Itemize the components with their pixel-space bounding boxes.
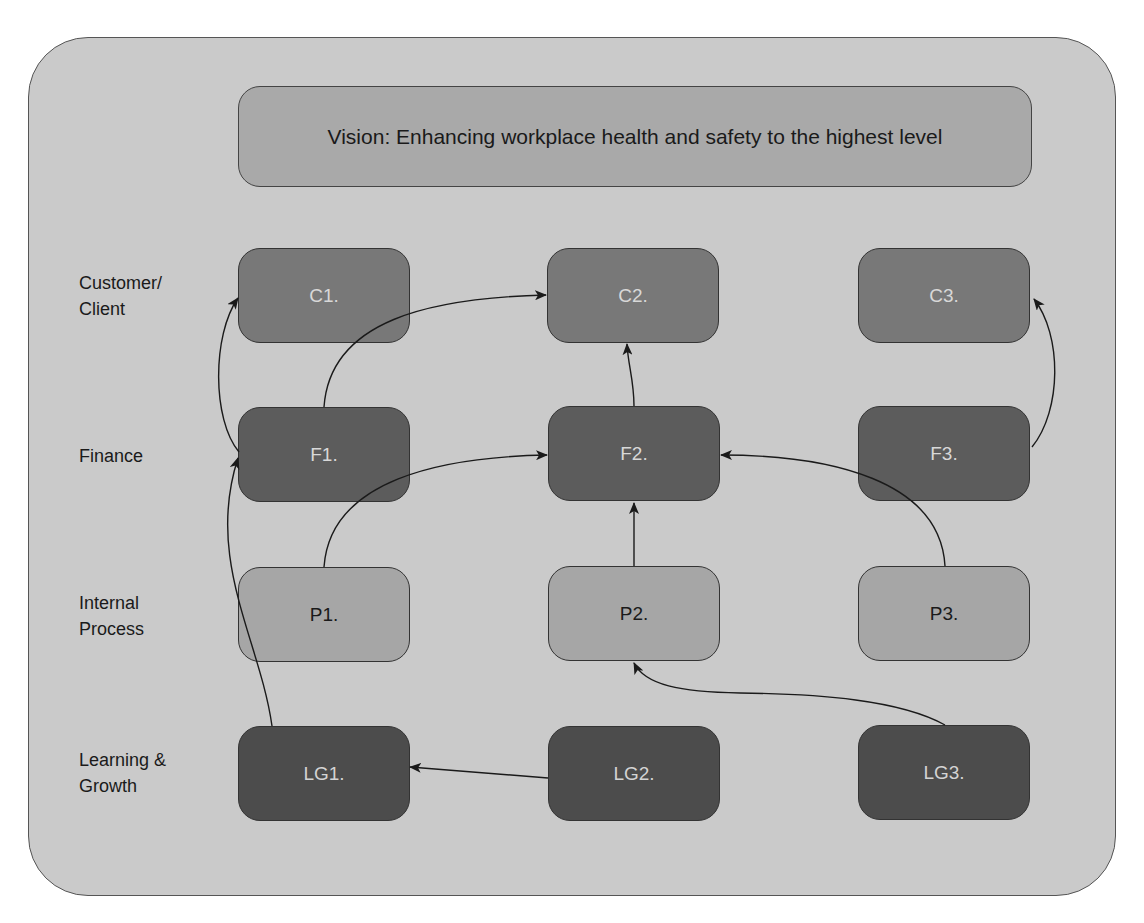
label-line: Finance [79,443,143,469]
node-c1: C1. [238,248,410,343]
node-p3: P3. [858,566,1030,661]
node-label: LG2. [613,763,654,785]
node-label: C3. [929,285,959,307]
node-label: P1. [310,604,339,626]
node-label: LG1. [303,763,344,785]
node-p2: P2. [548,566,720,661]
node-label: F1. [310,444,337,466]
label-line: Client [79,296,162,322]
node-label: F3. [930,443,957,465]
node-p1: P1. [238,567,410,662]
node-c3: C3. [858,248,1030,343]
node-f3: F3. [858,406,1030,501]
label-line: Process [79,616,144,642]
node-label: F2. [620,443,647,465]
node-label: P3. [930,603,959,625]
node-c2: C2. [547,248,719,343]
label-line: Learning & [79,747,166,773]
node-f2: F2. [548,406,720,501]
label-line: Customer/ [79,270,162,296]
node-label: C2. [618,285,648,307]
perspective-label-finance: Finance [79,443,143,469]
perspective-label-learning-growth: Learning & Growth [79,747,166,799]
perspective-label-customer: Customer/ Client [79,270,162,322]
node-label: C1. [309,285,339,307]
node-lg2: LG2. [548,726,720,821]
vision-banner: Vision: Enhancing workplace health and s… [238,86,1032,187]
node-lg1: LG1. [238,726,410,821]
node-f1: F1. [238,407,410,502]
node-label: P2. [620,603,649,625]
label-line: Growth [79,773,166,799]
vision-text: Vision: Enhancing workplace health and s… [328,125,943,149]
node-lg3: LG3. [858,725,1030,820]
label-line: Internal [79,590,144,616]
perspective-label-internal-process: Internal Process [79,590,144,642]
node-label: LG3. [923,762,964,784]
